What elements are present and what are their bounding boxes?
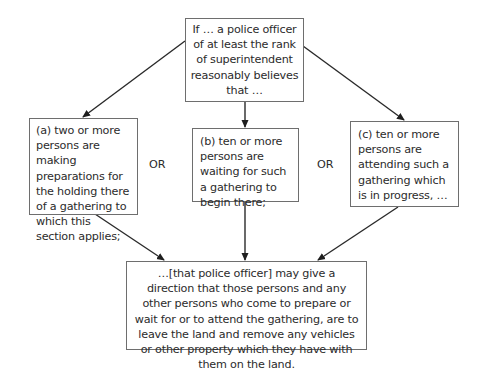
option-a-box: (a) two or more persons are making prepa… [29,118,138,215]
diagram-canvas: If … a police officer of at least the ra… [0,0,484,381]
or-label-right: OR [317,158,334,171]
condition-text: If … a police officer of at least the ra… [191,23,299,97]
arrow-c-to-outcome [318,207,398,260]
or-label-left: OR [149,158,166,171]
option-b-box: (b) ten or more persons are waiting for … [192,128,299,202]
option-b-text: (b) ten or more persons are waiting for … [200,135,286,209]
option-c-box: (c) ten or more persons are attending su… [350,121,459,207]
arrow-condition-to-c [303,46,404,120]
condition-box: If … a police officer of at least the ra… [185,18,304,102]
outcome-box: …[that police officer] may give a direct… [126,261,367,350]
outcome-text: …[that police officer] may give a direct… [135,267,359,371]
arrow-condition-to-a [83,41,185,117]
option-c-text: (c) ten or more persons are attending su… [358,128,449,202]
